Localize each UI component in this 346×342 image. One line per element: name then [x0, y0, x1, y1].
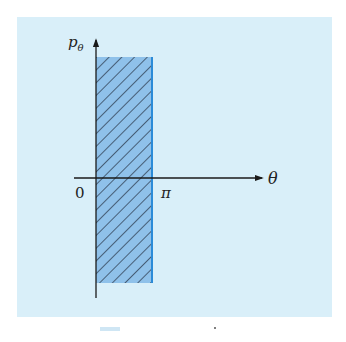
caption-fragment — [100, 327, 120, 331]
caption-dot — [214, 327, 216, 329]
origin-label: 0 — [75, 184, 85, 202]
phase-space-diagram: pθ θ 0 π — [0, 0, 346, 342]
figure-panel — [17, 17, 332, 317]
shaded-region — [96, 57, 152, 283]
pi-label: π — [160, 184, 172, 202]
x-axis-label: θ — [268, 169, 278, 188]
